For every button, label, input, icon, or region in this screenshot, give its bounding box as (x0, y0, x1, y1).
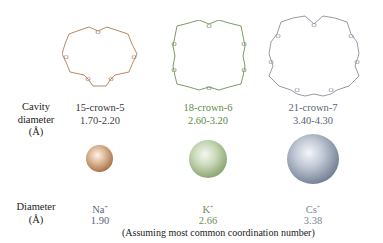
svg-text:O: O (95, 28, 100, 36)
18-crown-6-structure-icon: O O O O O O (165, 20, 253, 92)
cesium-ion-sphere-icon (287, 134, 339, 184)
potassium-ion-sphere-icon (189, 140, 227, 178)
svg-text:O: O (206, 22, 211, 30)
cavity-diameter-21-crown-7: 3.40-4.30 (283, 114, 343, 127)
footnote: (Assuming most common coordination numbe… (122, 227, 315, 238)
sodium-ion-sphere-icon (86, 145, 113, 172)
svg-text:O: O (241, 40, 246, 48)
ion-diameter-potassium: 2.66 (178, 214, 238, 227)
cavity-diameter-row-label: Cavity diameter (Å) (12, 101, 60, 139)
svg-text:O: O (268, 58, 273, 66)
svg-text:O: O (108, 75, 113, 83)
diameter-label-line2: (Å) (12, 214, 60, 227)
svg-text:O: O (206, 84, 211, 92)
svg-text:O: O (241, 66, 246, 74)
ion-diameter-row-label: Diameter (Å) (12, 201, 60, 226)
cavity-diameter-15-crown-5: 1.70-2.20 (70, 114, 130, 127)
ion-diameter-sodium: 1.90 (70, 214, 130, 227)
svg-text:O: O (131, 53, 136, 61)
15-crown-5-structure-icon: O O O O O (62, 26, 138, 88)
diameter-label-line1: Diameter (12, 201, 60, 214)
svg-text:O: O (171, 40, 176, 48)
cavity-diameter-18-crown-6: 2.60-3.20 (178, 114, 238, 127)
21-crown-7-structure-icon: O O O O O O O (267, 14, 363, 98)
ion-diameter-cesium: 3.38 (283, 214, 343, 227)
svg-text:O: O (85, 75, 90, 83)
cavity-label-line1: Cavity (12, 101, 60, 114)
svg-text:O: O (348, 32, 353, 40)
svg-text:O: O (63, 53, 68, 61)
cavity-label-line3: (Å) (12, 126, 60, 139)
svg-text:O: O (275, 32, 280, 40)
cavity-label-line2: diameter (12, 114, 60, 127)
crown-name-21-crown-7: 21-crown-7 (283, 101, 343, 114)
svg-text:O: O (354, 58, 359, 66)
svg-text:O: O (294, 86, 299, 94)
crown-name-15-crown-5: 15-crown-5 (70, 101, 130, 114)
crown-name-18-crown-6: 18-crown-6 (178, 101, 238, 114)
svg-text:O: O (171, 66, 176, 74)
svg-text:O: O (311, 21, 316, 29)
svg-text:O: O (328, 86, 333, 94)
